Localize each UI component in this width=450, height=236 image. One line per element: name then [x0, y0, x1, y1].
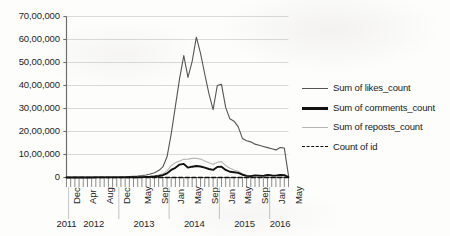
- year-axis-label: 2015: [225, 218, 265, 229]
- legend-item[interactable]: Sum of reposts_count: [302, 117, 450, 137]
- x-axis-tick-label: Sep: [209, 187, 220, 204]
- year-axis-label: 2012: [74, 218, 114, 229]
- y-axis-tick-label: 40,00,000: [2, 79, 60, 90]
- x-axis-tick-label: Aug: [104, 187, 115, 204]
- line-swatch-icon: [302, 122, 328, 132]
- legend-item-label: Sum of reposts_count: [333, 121, 422, 132]
- y-axis-tick-label: 0: [2, 171, 60, 182]
- x-axis-tick-label: Sep: [159, 187, 170, 204]
- x-axis-tick-label: Dec: [121, 187, 132, 204]
- y-axis-tick-label: 20,00,000: [2, 125, 60, 136]
- y-axis-tick-label: 10,00,000: [2, 148, 60, 159]
- x-axis-tick-label: Jan: [276, 189, 287, 204]
- x-axis-tick-label: May: [293, 186, 304, 204]
- year-axis-label: 2016: [260, 218, 300, 229]
- year-axis-label: 2013: [124, 218, 164, 229]
- x-axis-tick-label: Dec: [71, 187, 82, 204]
- gridlines-group: [67, 17, 289, 155]
- dashed-line-swatch-icon: [302, 141, 328, 151]
- x-axis-tick-label: Jan: [226, 189, 237, 204]
- y-axis-tick-label: 70,00,000: [2, 10, 60, 21]
- x-axis-tick-label: Apr: [87, 190, 98, 204]
- legend-item-label: Sum of comments_count: [333, 102, 435, 113]
- line-swatch-icon: [302, 83, 328, 93]
- data-series-group: [67, 37, 289, 177]
- y-axis-tick-label: 30,00,000: [2, 102, 60, 113]
- y-axis-tick-label: 50,00,000: [2, 56, 60, 67]
- legend-item[interactable]: Count of id: [302, 137, 450, 157]
- legend-item[interactable]: Sum of comments_count: [302, 98, 450, 118]
- x-axis-tick-label: Jan: [175, 189, 186, 204]
- chart-figure: 010,00,00020,00,00030,00,00040,00,00050,…: [0, 0, 450, 236]
- line-swatch-icon: [302, 102, 328, 112]
- legend-item[interactable]: Sum of likes_count: [302, 78, 450, 98]
- year-axis-label: 2014: [174, 218, 214, 229]
- series-line: [67, 164, 289, 178]
- series-line: [67, 37, 289, 177]
- legend-item-label: Count of id: [333, 141, 377, 152]
- x-axis-tick-label: May: [142, 186, 153, 204]
- y-axis-tick-label: 60,00,000: [2, 33, 60, 44]
- x-axis-tick-label: May: [242, 186, 253, 204]
- x-axis-tick-label: Sep: [259, 187, 270, 204]
- axes-group: [67, 17, 289, 178]
- x-axis-tick-label: May: [192, 186, 203, 204]
- legend-item-label: Sum of likes_count: [333, 82, 411, 93]
- x-axis-ticks-group: [67, 178, 289, 188]
- chart-legend: Sum of likes_count Sum of comments_count…: [302, 78, 450, 156]
